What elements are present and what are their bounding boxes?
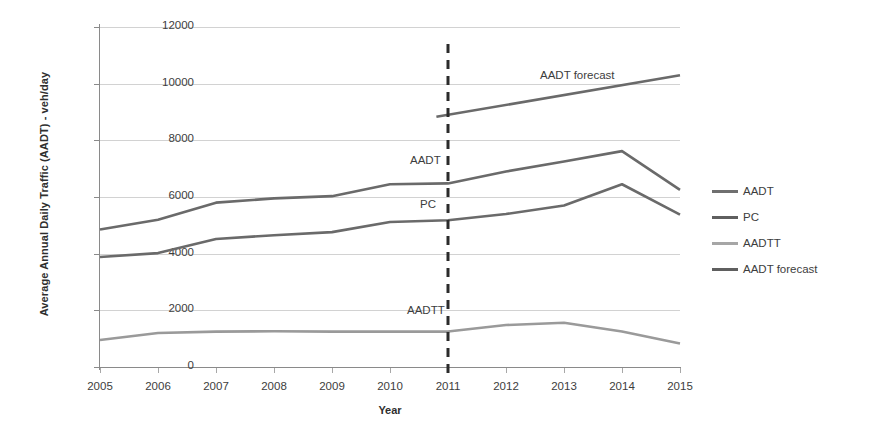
x-axis-title: Year	[100, 404, 680, 416]
x-tick-mark	[332, 368, 333, 373]
series-label-aadtt: AADTT	[407, 305, 445, 317]
legend-swatch-icon	[712, 216, 738, 219]
legend-item-aadtt[interactable]: AADTT	[712, 230, 872, 256]
chart-legend: AADTPCAADTTAADT forecast	[712, 178, 872, 282]
y-tick-mark	[94, 197, 100, 198]
y-tick-mark	[94, 27, 100, 28]
y-tick-mark	[94, 254, 100, 255]
y-tick-label: 10000	[134, 77, 194, 89]
x-tick-label: 2008	[246, 381, 302, 393]
x-tick-mark	[680, 368, 681, 373]
y-tick-mark	[94, 140, 100, 141]
series-label-aadt-forecast: AADT forecast	[540, 70, 615, 82]
legend-label: AADT	[743, 185, 774, 197]
x-tick-mark	[158, 368, 159, 373]
x-tick-mark	[564, 368, 565, 373]
y-tick-mark	[94, 84, 100, 85]
x-tick-mark	[390, 368, 391, 373]
y-tick-label: 0	[134, 360, 194, 372]
legend-label: AADTT	[743, 237, 781, 249]
legend-label: PC	[743, 211, 759, 223]
x-tick-label: 2009	[304, 381, 360, 393]
x-tick-mark	[448, 368, 449, 373]
y-tick-label: 4000	[134, 247, 194, 259]
x-tick-mark	[216, 368, 217, 373]
x-tick-label: 2005	[72, 381, 128, 393]
legend-item-aadt-forecast[interactable]: AADT forecast	[712, 256, 872, 282]
x-tick-mark	[274, 368, 275, 373]
legend-item-aadt[interactable]: AADT	[712, 178, 872, 204]
legend-item-pc[interactable]: PC	[712, 204, 872, 230]
x-tick-label: 2014	[594, 381, 650, 393]
x-tick-mark	[622, 368, 623, 373]
y-tick-label: 2000	[134, 303, 194, 315]
x-tick-label: 2012	[478, 381, 534, 393]
x-tick-label: 2006	[130, 381, 186, 393]
x-tick-label: 2010	[362, 381, 418, 393]
x-tick-label: 2007	[188, 381, 244, 393]
y-tick-label: 6000	[134, 190, 194, 202]
y-tick-label: 12000	[134, 20, 194, 32]
x-tick-label: 2011	[420, 381, 476, 393]
legend-swatch-icon	[712, 268, 738, 271]
legend-swatch-icon	[712, 190, 738, 193]
legend-label: AADT forecast	[743, 263, 818, 275]
series-label-pc: PC	[420, 199, 436, 211]
y-axis-title: Average Annual Daily Traffic (AADT) - ve…	[38, 44, 50, 344]
x-tick-mark	[100, 368, 101, 373]
y-tick-mark	[94, 310, 100, 311]
y-tick-label: 8000	[134, 133, 194, 145]
series-label-aadt: AADT	[410, 155, 441, 167]
legend-swatch-icon	[712, 242, 738, 245]
chart-figure: Average Annual Daily Traffic (AADT) - ve…	[0, 0, 878, 438]
x-tick-mark	[506, 368, 507, 373]
x-tick-label: 2015	[652, 381, 708, 393]
x-tick-label: 2013	[536, 381, 592, 393]
